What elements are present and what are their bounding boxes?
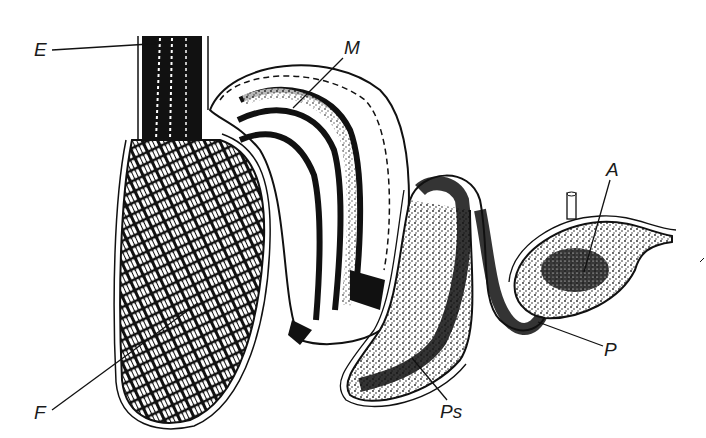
- label-midgut: M: [344, 38, 360, 57]
- leader-P: [538, 322, 603, 346]
- rectum: [509, 192, 704, 318]
- label-crop: F: [34, 403, 46, 422]
- diagram-canvas: E M A P Ps F: [0, 0, 706, 438]
- label-esophagus: E: [34, 40, 47, 59]
- label-rectum: A: [606, 160, 619, 179]
- label-pylorus: P: [604, 340, 617, 359]
- label-hindgut-loop: Ps: [440, 402, 462, 421]
- gut-section-drawing: [0, 0, 706, 438]
- crop-sac: [114, 134, 270, 429]
- esophagus: [138, 36, 208, 150]
